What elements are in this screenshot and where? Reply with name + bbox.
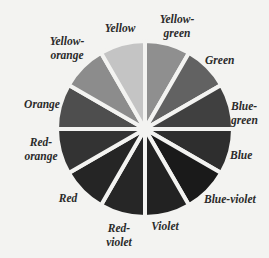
label-green: Green (205, 54, 234, 66)
label-yellow: Yellow (105, 22, 136, 34)
wheel-center-hub (139, 123, 151, 135)
color-wheel: YellowYellow-greenGreenBlue-greenBlueBlu… (0, 0, 269, 258)
label-bluegreen: Blue-green (230, 100, 258, 127)
label-violet: Violet (151, 220, 179, 232)
label-orange: Orange (24, 98, 60, 111)
label-yellowgreen: Yellow-green (160, 13, 195, 40)
label-red: Red (58, 192, 78, 204)
label-blueviolet: Blue-violet (203, 193, 257, 205)
label-redviolet: Red-violet (106, 222, 132, 248)
color-wheel-diagram: YellowYellow-greenGreenBlue-greenBlueBlu… (0, 0, 269, 258)
label-yelloworange: Yellow-orange (50, 35, 85, 62)
label-redorange: Red-orange (24, 136, 57, 163)
label-blue: Blue (229, 149, 252, 161)
